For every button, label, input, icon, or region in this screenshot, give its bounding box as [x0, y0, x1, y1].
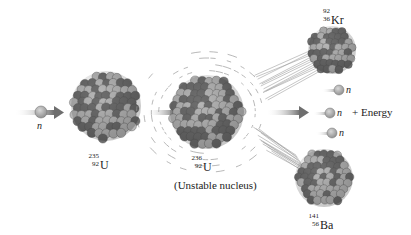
u235-label: 235 92 U [100, 155, 109, 173]
product-neutron-1 [334, 85, 344, 95]
u236-mass-number: 236 [192, 155, 203, 162]
fission-diagram [0, 0, 411, 235]
ba141-symbol: Ba [320, 218, 333, 232]
product-neutron-3 [327, 128, 337, 138]
reaction-arrow-2 [266, 106, 309, 119]
kr92-atomic-number: 36 [323, 16, 330, 23]
unstable-nucleus-caption: (Unstable nucleus) [174, 180, 257, 191]
product-neutron-1-label: n [346, 85, 351, 95]
energy-label: + Energy [352, 107, 393, 118]
kr92-label: 92 36 Kr [331, 10, 344, 28]
product-neutron-2 [325, 108, 335, 118]
u236-label: 236 92 U [203, 157, 212, 175]
u236-atomic-number: 92 [195, 163, 202, 170]
krypton-92-nucleus [308, 26, 357, 74]
kr92-symbol: Kr [331, 13, 344, 27]
u236-symbol: U [203, 160, 212, 174]
incoming-neutron-label: n [37, 121, 42, 131]
uranium-236-nucleus [169, 75, 247, 149]
u235-atomic-number: 92 [92, 161, 99, 168]
kr92-mass-number: 92 [323, 8, 330, 15]
barium-141-nucleus [294, 149, 354, 207]
ba141-atomic-number: 56 [312, 221, 319, 228]
product-neutron-3-label: n [339, 128, 344, 138]
product-neutron-2-label: n [337, 108, 342, 118]
ba141-label: 141 56 Ba [320, 215, 333, 233]
ba141-mass-number: 141 [309, 213, 320, 220]
u235-symbol: U [100, 158, 109, 172]
u235-mass-number: 235 [89, 153, 100, 160]
uranium-235-nucleus [69, 71, 141, 143]
incoming-neutron [35, 106, 47, 118]
